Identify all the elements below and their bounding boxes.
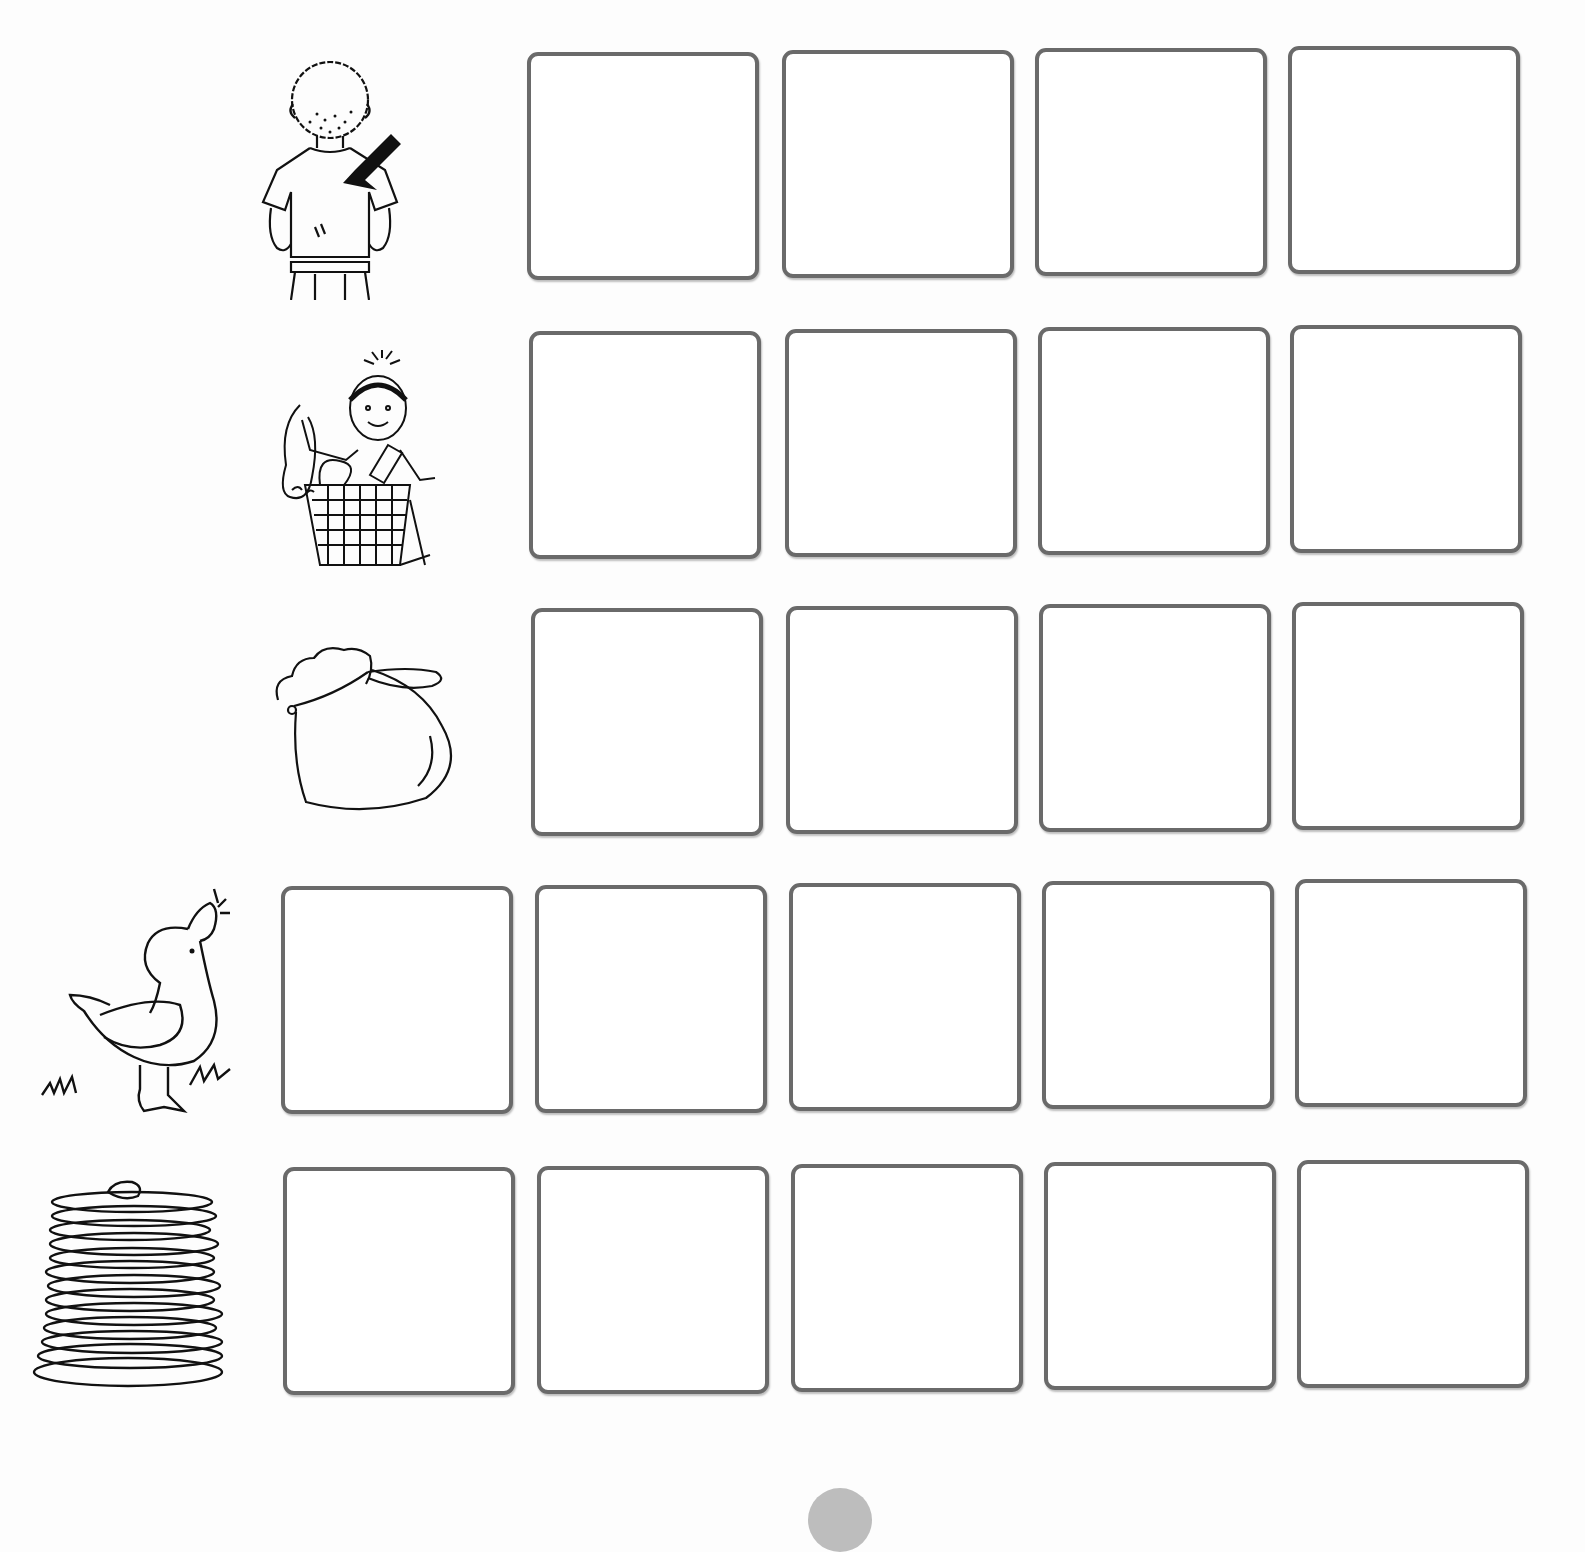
answer-box[interactable] [281,886,513,1114]
answer-box[interactable] [1288,46,1520,274]
answer-box[interactable] [1295,879,1527,1107]
answer-box[interactable] [529,331,761,559]
answer-box[interactable] [283,1167,515,1395]
page-number-badge [808,1488,872,1552]
answer-box[interactable] [786,606,1018,834]
sack-picture: sack [270,640,455,815]
answer-box[interactable] [1035,48,1267,276]
answer-box[interactable] [1039,604,1271,832]
answer-box[interactable] [791,1164,1023,1392]
answer-box[interactable] [785,329,1017,557]
answer-box[interactable] [782,50,1014,278]
answer-box[interactable] [1042,881,1274,1109]
duck-icon [40,885,240,1125]
girl-unpacking-icon [250,350,445,575]
answer-box[interactable] [1292,602,1524,830]
girl-unpacking-picture: unpack [250,350,445,575]
answer-box[interactable] [535,885,767,1113]
answer-box[interactable] [1038,327,1270,555]
pancakes-picture: stack [30,1180,230,1395]
answer-box[interactable] [1290,325,1522,553]
answer-box[interactable] [789,883,1021,1111]
answer-box[interactable] [531,608,763,836]
answer-box[interactable] [1297,1160,1529,1388]
duck-picture: quack [40,885,240,1125]
answer-box[interactable] [527,52,759,280]
boy-back-icon [255,52,405,300]
answer-box[interactable] [537,1166,769,1394]
sack-icon [270,640,455,815]
answer-box[interactable] [1044,1162,1276,1390]
boy-back-picture: back [255,52,405,300]
pancakes-icon [30,1180,230,1395]
